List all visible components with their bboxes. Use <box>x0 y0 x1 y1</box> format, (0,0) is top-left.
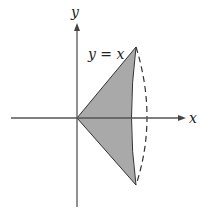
diagram-canvas: x y y = x <box>0 0 202 216</box>
x-axis-label: x <box>189 110 197 126</box>
shaded-region <box>77 47 136 185</box>
dashed-ellipse-edge <box>136 47 147 185</box>
x-axis-arrow-icon <box>178 115 186 121</box>
y-axis-arrow-icon <box>74 23 80 31</box>
curve-label: y = x <box>87 46 125 62</box>
y-axis-label: y <box>70 4 80 20</box>
